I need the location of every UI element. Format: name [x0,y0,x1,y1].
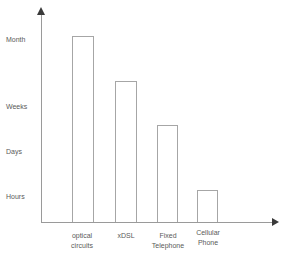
bar-optical-circuits [72,36,94,222]
y-tick-label-hours: Hours [0,193,42,201]
bar-fixed-telephone [157,125,178,222]
y-tick-label-month: Month [0,36,42,44]
x-label-cellular-phone: Cellular Phone [183,228,233,247]
bar-cellular-phone [197,190,218,222]
y-tick-label-weeks: Weeks [0,103,42,111]
bar-xdsl [115,81,137,222]
y-axis-arrow-icon [37,7,45,15]
y-tick-label-days: Days [0,148,42,156]
bar-chart: Month Weeks Days Hours optical circuits … [0,0,284,255]
x-label-optical-circuits: optical circuits [58,231,106,250]
x-axis-line [41,222,274,223]
x-axis-arrow-icon [272,218,279,226]
y-axis-line [41,14,42,222]
